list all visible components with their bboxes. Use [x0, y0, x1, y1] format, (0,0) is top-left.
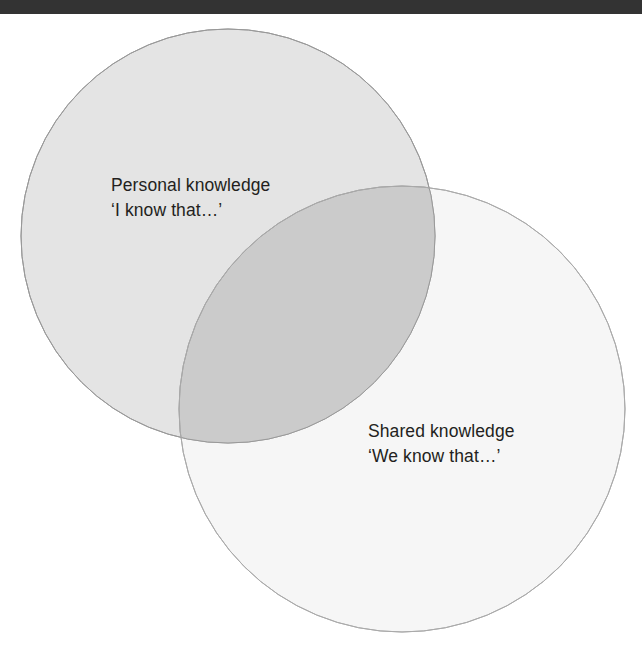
venn-label-personal-subtitle: ‘I know that…’	[111, 198, 270, 223]
venn-label-personal-knowledge: Personal knowledge ‘I know that…’	[111, 173, 270, 223]
venn-label-shared-knowledge: Shared knowledge ‘We know that…’	[368, 419, 515, 469]
venn-diagram	[0, 0, 642, 655]
page-root: Personal knowledge ‘I know that…’ Shared…	[0, 0, 642, 655]
venn-label-personal-title: Personal knowledge	[111, 173, 270, 198]
venn-label-shared-title: Shared knowledge	[368, 419, 515, 444]
venn-label-shared-subtitle: ‘We know that…’	[368, 444, 515, 469]
